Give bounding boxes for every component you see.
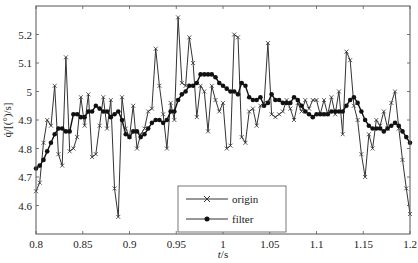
filter-point <box>82 115 87 120</box>
filter-point <box>355 101 360 106</box>
filter-point <box>45 149 50 154</box>
filter-point <box>157 118 162 123</box>
y-tick-label: 4.6 <box>18 200 32 212</box>
filter-point <box>288 101 293 106</box>
y-tick-label: 5.2 <box>18 29 32 41</box>
filter-point <box>344 103 349 108</box>
filter-point <box>266 101 271 106</box>
x-tick-label: 0.8 <box>29 238 43 250</box>
filter-point <box>224 86 229 91</box>
filter-point <box>138 135 143 140</box>
filter-point <box>363 118 368 123</box>
filter-point <box>127 135 132 140</box>
filter-point <box>217 81 222 86</box>
filter-point <box>348 98 353 103</box>
filter-point <box>75 112 80 117</box>
filter-point <box>258 95 263 100</box>
origin-point <box>307 107 311 111</box>
filter-point <box>123 132 128 137</box>
filter-point <box>325 112 330 117</box>
filter-point <box>142 132 147 137</box>
x-tick-label: 0.95 <box>167 238 187 250</box>
x-tick-label: 1.2 <box>403 238 417 250</box>
filter-point <box>150 121 155 126</box>
filter-point <box>213 75 218 80</box>
filter-point <box>367 123 372 128</box>
x-tick-label: 1.15 <box>354 238 374 250</box>
filter-point <box>359 109 364 114</box>
filter-point <box>239 81 244 86</box>
filter-point <box>299 103 304 108</box>
dot-marker-icon <box>205 217 210 222</box>
y-tick-label: 5.1 <box>18 57 32 69</box>
filter-point <box>191 84 196 89</box>
filter-point <box>209 72 214 77</box>
y-tick-label: 4.8 <box>18 143 32 155</box>
filter-point <box>116 109 121 114</box>
filter-point <box>310 115 315 120</box>
filter-point <box>109 115 114 120</box>
origin-point <box>273 115 277 119</box>
x-tick-label: 0.9 <box>123 238 137 250</box>
x-tick-label: 1.1 <box>310 238 324 250</box>
filter-point <box>60 126 65 131</box>
filter-point <box>195 81 200 86</box>
filter-point <box>221 84 226 89</box>
legend-origin-label: origin <box>232 193 259 205</box>
filter-point <box>393 121 398 126</box>
y-tick-label: 4.7 <box>18 171 32 183</box>
filter-point <box>180 92 185 97</box>
filter-point <box>247 95 252 100</box>
filter-point <box>172 109 177 114</box>
filter-point <box>404 135 409 140</box>
filter-point <box>382 129 387 134</box>
filter-point <box>303 109 308 114</box>
filter-point <box>352 95 357 100</box>
filter-point <box>183 89 188 94</box>
filter-point <box>236 92 241 97</box>
filter-point <box>254 98 259 103</box>
filter-point <box>67 129 72 134</box>
filter-point <box>97 106 102 111</box>
legend-filter-label: filter <box>232 213 254 225</box>
filter-point <box>146 126 151 131</box>
filter-point <box>243 84 248 89</box>
filter-point <box>232 89 237 94</box>
filter-point <box>37 163 42 168</box>
filter-point <box>269 92 274 97</box>
filter-point <box>396 123 401 128</box>
filter-point <box>52 132 57 137</box>
filter-point <box>307 112 312 117</box>
y-tick-label: 5 <box>27 86 33 98</box>
filter-point <box>94 103 99 108</box>
filter-point <box>112 112 117 117</box>
y-tick-label: 4.9 <box>18 114 32 126</box>
filter-point <box>385 126 390 131</box>
filter-point <box>400 129 405 134</box>
filter-point <box>165 118 170 123</box>
filter-point <box>292 95 297 100</box>
filter-point <box>161 121 166 126</box>
filter-point <box>120 118 125 123</box>
filter-point <box>378 126 383 131</box>
filter-point <box>105 109 110 114</box>
x-tick-label: 1.05 <box>260 238 280 250</box>
filter-point <box>41 158 46 163</box>
x-tick-label: 0.85 <box>73 238 93 250</box>
line-chart: 0.80.850.90.9511.051.11.151.2 4.64.74.84… <box>0 0 418 263</box>
filter-point <box>90 109 95 114</box>
x-axis-label: t/s <box>218 248 228 260</box>
filter-point <box>277 98 282 103</box>
filter-point <box>176 98 181 103</box>
filter-point <box>389 123 394 128</box>
filter-point <box>296 98 301 103</box>
origin-point <box>277 112 281 116</box>
filter-point <box>262 103 267 108</box>
filter-point <box>49 141 54 146</box>
y-axis-label: q̇/[(°)/s] <box>1 103 14 138</box>
y-axis: 4.64.74.84.955.15.2 <box>18 29 410 212</box>
filter-point <box>340 109 345 114</box>
filter-point <box>135 129 140 134</box>
legend: origin filter <box>178 186 286 232</box>
